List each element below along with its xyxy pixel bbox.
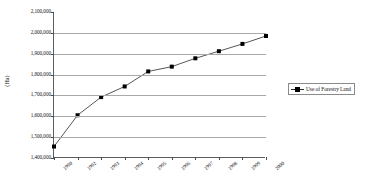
x-axis-tick-label: 1999 bbox=[250, 160, 262, 171]
y-axis-tick-label: 2,000,000 bbox=[16, 30, 51, 35]
series-use-of-forestry-land bbox=[54, 12, 266, 158]
x-axis-tick-label: 1997 bbox=[203, 160, 215, 171]
plot-area bbox=[53, 12, 265, 158]
gridline bbox=[54, 75, 266, 76]
series-data-point bbox=[52, 145, 56, 149]
y-axis-tick-mark bbox=[51, 33, 54, 34]
gridline bbox=[54, 54, 266, 55]
x-axis-tick-label: 1993 bbox=[109, 160, 121, 171]
y-axis-tick-mark bbox=[51, 54, 54, 55]
gridline bbox=[54, 33, 266, 34]
x-axis-tick-mark bbox=[266, 157, 267, 160]
series-data-point bbox=[170, 65, 174, 69]
series-line bbox=[54, 36, 266, 147]
series-data-point bbox=[240, 42, 244, 46]
gridline bbox=[54, 137, 266, 138]
x-axis-tick-label: 1992 bbox=[85, 160, 97, 171]
x-axis-tick-label: 1990 bbox=[62, 160, 74, 171]
legend-entry-label: Use of Forestry Land bbox=[306, 86, 351, 92]
y-axis-tick-label: 1,400,000 bbox=[16, 155, 51, 160]
legend-marker-icon bbox=[291, 86, 304, 92]
series-data-point bbox=[123, 84, 127, 88]
y-axis-tick-label: 1,700,000 bbox=[16, 93, 51, 98]
series-data-point bbox=[193, 56, 197, 60]
series-markers bbox=[52, 34, 268, 149]
y-axis-tick-label: 2,100,000 bbox=[16, 9, 51, 14]
y-axis-tick-mark bbox=[51, 116, 54, 117]
y-axis-tick-label: 1,500,000 bbox=[16, 135, 51, 140]
line-chart: (Ha) 2,100,0002,000,0001,900,0001,800,00… bbox=[0, 0, 373, 190]
y-axis-tick-mark bbox=[51, 12, 54, 13]
y-axis-tick-mark bbox=[51, 75, 54, 76]
x-axis-tick-label: 1995 bbox=[156, 160, 168, 171]
y-axis-title: (Ha) bbox=[4, 61, 10, 101]
y-axis-tick-labels: 2,100,0002,000,0001,900,0001,800,0001,70… bbox=[16, 12, 51, 158]
y-axis-tick-label: 1,900,000 bbox=[16, 51, 51, 56]
series-data-point bbox=[217, 49, 221, 53]
chart-legend: Use of Forestry Land bbox=[288, 83, 355, 95]
x-axis-tick-label: 2000 bbox=[274, 160, 286, 171]
gridline bbox=[54, 116, 266, 117]
series-data-point bbox=[146, 69, 150, 73]
y-axis-tick-mark bbox=[51, 95, 54, 96]
series-data-point bbox=[264, 34, 268, 38]
y-axis-tick-mark bbox=[51, 137, 54, 138]
x-axis-tick-label: 1996 bbox=[179, 160, 191, 171]
y-axis-tick-label: 1,600,000 bbox=[16, 114, 51, 119]
x-axis-tick-labels: 1990199219931994199519961997199819992000 bbox=[53, 160, 265, 188]
gridline bbox=[54, 95, 266, 96]
y-axis-tick-label: 1,800,000 bbox=[16, 72, 51, 77]
x-axis-tick-label: 1994 bbox=[132, 160, 144, 171]
x-axis-tick-label: 1998 bbox=[226, 160, 238, 171]
